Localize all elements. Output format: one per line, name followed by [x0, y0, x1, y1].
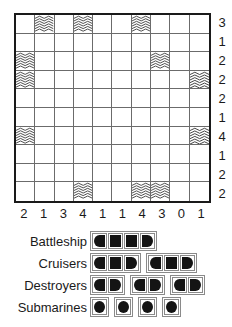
grid-cell-r4-c7[interactable] — [151, 89, 170, 108]
grid-cell-r9-c5[interactable] — [112, 182, 131, 201]
grid-cell-r5-c8[interactable] — [170, 108, 189, 127]
ship-destroyers-0[interactable] — [90, 275, 125, 295]
grid-cell-r2-c8[interactable] — [170, 52, 189, 71]
grid-cell-r8-c1[interactable] — [35, 164, 54, 183]
grid-cell-r9-c2[interactable] — [55, 182, 74, 201]
grid-cell-r3-c4[interactable] — [93, 71, 112, 90]
grid-cell-r1-c7[interactable] — [151, 34, 170, 53]
grid-cell-r7-c1[interactable] — [35, 145, 54, 164]
grid-cell-r1-c8[interactable] — [170, 34, 189, 53]
grid-cell-r5-c1[interactable] — [35, 108, 54, 127]
grid-cell-r2-c9[interactable] — [190, 52, 209, 71]
grid-cell-r0-c4[interactable] — [93, 15, 112, 34]
ship-battleship-0[interactable] — [90, 231, 157, 251]
grid-cell-r9-c6[interactable] — [132, 182, 151, 201]
grid-cell-r1-c0[interactable] — [16, 34, 35, 53]
grid-cell-r3-c9[interactable] — [190, 71, 209, 90]
grid-cell-r1-c4[interactable] — [93, 34, 112, 53]
grid-cell-r1-c6[interactable] — [132, 34, 151, 53]
grid-cell-r7-c5[interactable] — [112, 145, 131, 164]
grid-cell-r9-c3[interactable] — [74, 182, 93, 201]
grid-cell-r7-c7[interactable] — [151, 145, 170, 164]
grid-cell-r9-c1[interactable] — [35, 182, 54, 201]
grid-cell-r5-c7[interactable] — [151, 108, 170, 127]
grid-cell-r5-c3[interactable] — [74, 108, 93, 127]
grid-cell-r2-c6[interactable] — [132, 52, 151, 71]
grid-cell-r9-c9[interactable] — [190, 182, 209, 201]
grid-cell-r8-c8[interactable] — [170, 164, 189, 183]
grid-cell-r8-c3[interactable] — [74, 164, 93, 183]
grid-cell-r2-c7[interactable] — [151, 52, 170, 71]
ship-submarines-2[interactable] — [138, 297, 157, 317]
grid-cell-r0-c6[interactable] — [132, 15, 151, 34]
grid-cell-r0-c5[interactable] — [112, 15, 131, 34]
grid-cell-r7-c9[interactable] — [190, 145, 209, 164]
grid-cell-r8-c5[interactable] — [112, 164, 131, 183]
grid-cell-r5-c4[interactable] — [93, 108, 112, 127]
grid-cell-r6-c5[interactable] — [112, 127, 131, 146]
grid-cell-r3-c7[interactable] — [151, 71, 170, 90]
grid-cell-r0-c8[interactable] — [170, 15, 189, 34]
grid-cell-r9-c8[interactable] — [170, 182, 189, 201]
grid-cell-r8-c9[interactable] — [190, 164, 209, 183]
grid-cell-r3-c5[interactable] — [112, 71, 131, 90]
grid-cell-r8-c6[interactable] — [132, 164, 151, 183]
grid-cell-r2-c2[interactable] — [55, 52, 74, 71]
grid-cell-r2-c3[interactable] — [74, 52, 93, 71]
grid-cell-r0-c0[interactable] — [16, 15, 35, 34]
grid-cell-r6-c2[interactable] — [55, 127, 74, 146]
grid-cell-r3-c3[interactable] — [74, 71, 93, 90]
grid-cell-r5-c2[interactable] — [55, 108, 74, 127]
grid-cell-r6-c9[interactable] — [190, 127, 209, 146]
grid-cell-r3-c0[interactable] — [16, 71, 35, 90]
grid-cell-r7-c4[interactable] — [93, 145, 112, 164]
grid-cell-r5-c9[interactable] — [190, 108, 209, 127]
ship-submarines-0[interactable] — [90, 297, 109, 317]
grid-cell-r3-c8[interactable] — [170, 71, 189, 90]
grid-cell-r7-c2[interactable] — [55, 145, 74, 164]
grid-cell-r2-c1[interactable] — [35, 52, 54, 71]
ship-submarines-3[interactable] — [162, 297, 181, 317]
grid-cell-r8-c2[interactable] — [55, 164, 74, 183]
grid-cell-r9-c7[interactable] — [151, 182, 170, 201]
grid-cell-r6-c1[interactable] — [35, 127, 54, 146]
grid-cell-r2-c5[interactable] — [112, 52, 131, 71]
grid-cell-r6-c7[interactable] — [151, 127, 170, 146]
grid-cell-r1-c9[interactable] — [190, 34, 209, 53]
grid-cell-r7-c8[interactable] — [170, 145, 189, 164]
grid-cell-r2-c0[interactable] — [16, 52, 35, 71]
grid-cell-r3-c1[interactable] — [35, 71, 54, 90]
grid-cell-r4-c3[interactable] — [74, 89, 93, 108]
grid-cell-r7-c0[interactable] — [16, 145, 35, 164]
grid-cell-r4-c9[interactable] — [190, 89, 209, 108]
grid-cell-r1-c3[interactable] — [74, 34, 93, 53]
grid-cell-r3-c6[interactable] — [132, 71, 151, 90]
grid-cell-r3-c2[interactable] — [55, 71, 74, 90]
grid-cell-r4-c6[interactable] — [132, 89, 151, 108]
grid-cell-r4-c8[interactable] — [170, 89, 189, 108]
grid-cell-r7-c6[interactable] — [132, 145, 151, 164]
grid-cell-r6-c8[interactable] — [170, 127, 189, 146]
grid-cell-r2-c4[interactable] — [93, 52, 112, 71]
grid-cell-r8-c7[interactable] — [151, 164, 170, 183]
grid-cell-r0-c3[interactable] — [74, 15, 93, 34]
grid-cell-r4-c4[interactable] — [93, 89, 112, 108]
grid-cell-r4-c0[interactable] — [16, 89, 35, 108]
grid-cell-r0-c2[interactable] — [55, 15, 74, 34]
grid-cell-r4-c1[interactable] — [35, 89, 54, 108]
grid-cell-r0-c7[interactable] — [151, 15, 170, 34]
grid-cell-r9-c0[interactable] — [16, 182, 35, 201]
grid-cell-r1-c2[interactable] — [55, 34, 74, 53]
ship-cruisers-0[interactable] — [90, 253, 141, 273]
ship-destroyers-1[interactable] — [130, 275, 165, 295]
ship-submarines-1[interactable] — [114, 297, 133, 317]
grid-cell-r4-c2[interactable] — [55, 89, 74, 108]
grid-cell-r6-c0[interactable] — [16, 127, 35, 146]
puzzle-grid[interactable] — [14, 13, 211, 203]
grid-cell-r8-c4[interactable] — [93, 164, 112, 183]
grid-cell-r6-c4[interactable] — [93, 127, 112, 146]
grid-cell-r1-c5[interactable] — [112, 34, 131, 53]
grid-cell-r5-c5[interactable] — [112, 108, 131, 127]
grid-cell-r6-c6[interactable] — [132, 127, 151, 146]
ship-cruisers-1[interactable] — [146, 253, 197, 273]
